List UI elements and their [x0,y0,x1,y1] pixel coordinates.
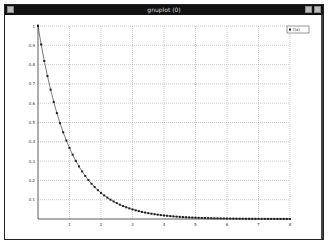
data-point [223,217,225,219]
data-point [276,218,278,220]
data-point [53,101,55,103]
x-tick-label: 1 [68,222,71,227]
data-point [154,213,156,215]
data-point [248,218,250,220]
data-point [50,89,52,91]
data-point [163,214,165,216]
chart: 0.10.20.30.40.50.60.70.80.9112345678 f(x… [0,0,328,252]
data-point [245,218,247,220]
data-point [261,218,263,220]
data-point [65,140,67,142]
y-tick-label: 0.9 [29,43,36,48]
data-point [62,131,64,133]
data-point [150,213,152,215]
data-point [56,112,58,114]
data-point [75,160,77,162]
data-point [43,60,45,62]
axes [38,24,290,219]
data-point [235,218,237,220]
data-point [213,217,215,219]
data-point [141,211,143,213]
grid [38,26,290,219]
data-point [59,122,61,124]
data-point [157,214,159,216]
data-point [125,206,127,208]
data-point [207,217,209,219]
data-point [113,200,115,202]
data-point [210,217,212,219]
data-point [100,192,102,194]
data-point [116,202,118,204]
data-point [37,25,39,27]
data-point [81,170,83,172]
data-point [232,218,234,220]
data-point [204,217,206,219]
x-tick-label: 8 [289,222,292,227]
legend-marker [289,29,291,31]
data-point [267,218,269,220]
x-tick-label: 7 [257,222,260,227]
data-point [132,208,134,210]
x-tick-label: 2 [100,222,103,227]
data-point [191,217,193,219]
data-point [78,165,80,167]
data-point [87,179,89,181]
y-tick-label: 0.8 [29,62,36,67]
data-point [128,207,130,209]
y-tick-label: 0.2 [29,178,36,183]
data-point [270,218,272,220]
x-tick-label: 3 [131,222,134,227]
data-point [72,154,74,156]
data-point [220,217,222,219]
data-point [166,215,168,217]
y-tick-label: 0.3 [29,159,36,164]
data-point [84,175,86,177]
data-point [273,218,275,220]
data-point [69,147,71,149]
x-tick-label: 4 [163,222,166,227]
data-point [94,186,96,188]
legend-label: f(x) [293,27,300,32]
data-point [144,212,146,214]
data-point [119,204,121,206]
data-point [195,217,197,219]
data-point [217,217,219,219]
data-point [106,197,108,199]
data-point [103,194,105,196]
data-point [264,218,266,220]
y-tick-label: 0.5 [29,120,36,125]
data-point [109,199,111,201]
data-point [283,218,285,220]
x-tick-label: 6 [226,222,229,227]
tick-labels: 0.10.20.30.40.50.60.70.80.9112345678 [29,24,292,228]
data-point [226,218,228,220]
y-tick-label: 1 [32,24,35,29]
data-point [97,189,99,191]
data-point [91,183,93,185]
y-tick-label: 0.7 [29,81,36,86]
data-point [147,212,149,214]
data-point [201,217,203,219]
data-point [258,218,260,220]
data-point [172,215,174,217]
data-point [40,43,42,45]
data-point [254,218,256,220]
y-tick-label: 0.4 [29,139,36,144]
data-point [251,218,253,220]
data-point [239,218,241,220]
data-point [185,216,187,218]
y-tick-label: 0.1 [29,197,36,202]
data-point [179,216,181,218]
data-point [182,216,184,218]
data-point [160,214,162,216]
data-point [198,217,200,219]
x-tick-label: 5 [194,222,197,227]
y-tick-label: 0.6 [29,101,36,106]
data-point [138,210,140,212]
data-point [229,218,231,220]
data-point [176,216,178,218]
data-point [286,218,288,220]
data-point [188,216,190,218]
data-point [289,218,291,220]
data-point [135,209,137,211]
